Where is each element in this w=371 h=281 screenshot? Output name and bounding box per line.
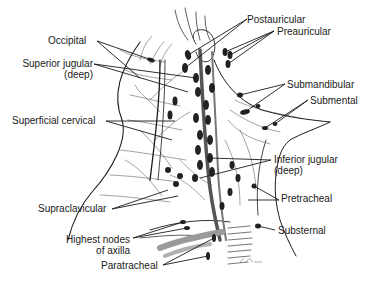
label-inferior-jugular-line2: (deep) — [274, 165, 338, 176]
label-inferior-jugular: Inferior jugular (deep) — [274, 154, 338, 176]
artist-signature — [240, 258, 262, 262]
label-substernal: Substernal — [278, 225, 326, 236]
label-superior-jugular-line1: Superior jugular — [13, 58, 93, 69]
label-paratracheal: Paratracheal — [101, 260, 158, 271]
lymph-nodes — [147, 48, 278, 260]
label-preauricular: Preauricular — [277, 26, 331, 37]
label-supraclavicular: Supraclavicular — [38, 203, 106, 214]
label-submandibular: Submandibular — [287, 79, 354, 90]
label-postauricular: Postauricular — [247, 14, 305, 25]
lymph-node-diagram: Postauricular Preauricular Occipital Sup… — [0, 0, 371, 281]
label-inferior-jugular-line1: Inferior jugular — [274, 154, 338, 165]
label-highest-nodes-of-axilla: Highest nodes of axilla — [58, 234, 130, 256]
label-submental: Submental — [310, 95, 358, 106]
label-superficial-cervical: Superficial cervical — [12, 115, 95, 126]
label-pretracheal: Pretracheal — [281, 193, 332, 204]
label-superior-jugular-line2: (deep) — [13, 69, 93, 80]
label-highest-nodes-line2: of axilla — [58, 245, 130, 256]
label-highest-nodes-line1: Highest nodes — [58, 234, 130, 245]
label-occipital: Occipital — [48, 35, 86, 46]
label-superior-jugular: Superior jugular (deep) — [13, 58, 93, 80]
